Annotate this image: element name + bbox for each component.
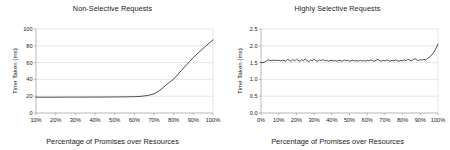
tick-label-x: 30% [308, 117, 319, 123]
tick-label-x: 80% [168, 117, 179, 123]
tick-label-x: 90% [188, 117, 199, 123]
y-axis-label-right: Time Taken (ms) [236, 48, 243, 94]
panel-highly-selective-requests: Highly Selective Requests 0.00.51.01.52.… [225, 0, 450, 150]
tick-label-x: 60% [129, 117, 140, 123]
plot-area-right: 0.00.51.01.52.02.50%10%20%30%40%50%60%70… [225, 0, 450, 150]
tick-label-x: 100% [206, 117, 220, 123]
tick-label-x: 50% [109, 117, 120, 123]
tick-label-x: 30% [70, 117, 81, 123]
tick-label-y: 0 [29, 110, 32, 116]
data-series-line [261, 44, 438, 62]
tick-label-x: 40% [326, 117, 337, 123]
tick-label-x: 40% [89, 117, 100, 123]
tick-label-x: 90% [415, 117, 426, 123]
chart-svg-right: 0.00.51.01.52.02.50%10%20%30%40%50%60%70… [225, 0, 450, 150]
chart-svg-left: 02040608010010%20%30%40%50%60%70%80%90%1… [0, 0, 225, 150]
tick-label-x: 20% [291, 117, 302, 123]
tick-label-y: 1.5 [250, 60, 258, 66]
tick-label-x: 10% [30, 117, 41, 123]
tick-label-x: 50% [344, 117, 355, 123]
tick-label-y: 100 [23, 26, 32, 32]
tick-label-x: 100% [431, 117, 445, 123]
figure-two-panel-line-charts: Non-Selective Requests 02040608010010%20… [0, 0, 450, 150]
panel-non-selective-requests: Non-Selective Requests 02040608010010%20… [0, 0, 225, 150]
x-axis-label-left: Percentage of Promises over Resources [0, 137, 225, 146]
tick-label-y: 60 [26, 60, 32, 66]
tick-label-y: 20 [26, 93, 32, 99]
tick-label-x: 70% [148, 117, 159, 123]
tick-label-y: 80 [26, 43, 32, 49]
tick-label-x: 0% [257, 117, 265, 123]
tick-label-x: 10% [273, 117, 284, 123]
tick-label-x: 60% [362, 117, 373, 123]
tick-label-y: 1.0 [250, 76, 258, 82]
tick-label-y: 0.0 [250, 110, 258, 116]
tick-label-x: 80% [397, 117, 408, 123]
tick-label-x: 20% [50, 117, 61, 123]
tick-label-y: 40 [26, 76, 32, 82]
tick-label-x: 70% [379, 117, 390, 123]
data-series-line [36, 40, 213, 97]
x-axis-label-right: Percentage of Promises over Resources [225, 137, 450, 146]
tick-label-y: 0.5 [250, 93, 258, 99]
y-axis-label-left: Time Taken (ms) [11, 48, 18, 94]
tick-label-y: 2.5 [250, 26, 258, 32]
tick-label-y: 2.0 [250, 43, 258, 49]
plot-area-left: 02040608010010%20%30%40%50%60%70%80%90%1… [0, 0, 225, 150]
